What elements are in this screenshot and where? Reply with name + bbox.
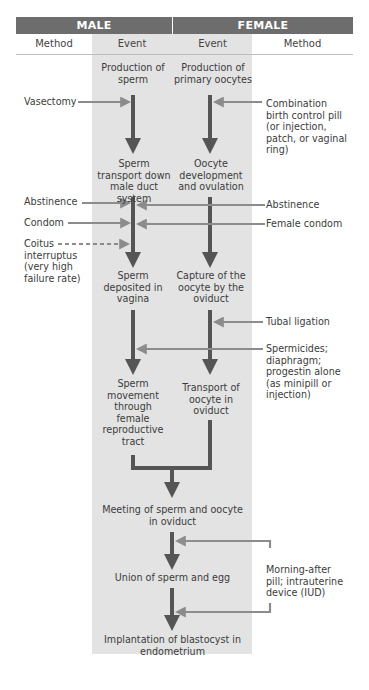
method-condom: Condom [24,217,64,229]
male-event-sperm-movement: Sperm movement through female reproducti… [98,378,168,448]
female-event-capture-of-oocyte: Capture of the oocyte by the oviduct [175,270,247,305]
male-event-sperm-deposited: Sperm deposited in vagina [100,270,166,305]
shared-event-union: Union of sperm and egg [100,572,245,584]
morning-after-arrow-2 [177,603,270,612]
method-vasectomy: Vasectomy [24,96,77,108]
morning-after-arrow-1 [177,541,270,548]
female-event-production-of-oocytes: Production of primary oocytes [174,62,252,85]
method-morning-after-iud: Morning-after pill; intrauterine device … [266,564,348,599]
method-female-abstinence: Abstinence [266,199,319,211]
female-event-transport-of-oocyte: Transport of oocyte in oviduct [180,382,242,417]
method-tubal-ligation: Tubal ligation [266,316,330,328]
method-combination-pill: Combination birth control pill (or injec… [266,98,350,156]
shared-event-meeting: Meeting of sperm and oocyte in oviduct [100,504,245,527]
method-coitus-interruptus: Coitus interruptus (very high failure ra… [24,238,94,284]
method-male-abstinence: Abstinence [24,196,77,208]
method-spermicides: Spermicides; diaphragm; progestin alone … [266,343,348,401]
shared-event-implantation: Implantation of blastocyst in endometriu… [100,634,245,657]
female-event-oocyte-development: Oocyte development and ovulation [175,158,247,193]
method-female-condom: Female condom [266,218,342,230]
male-event-production-of-sperm: Production of sperm [95,62,171,85]
male-event-sperm-transport: Sperm transport down male duct system [95,158,173,204]
